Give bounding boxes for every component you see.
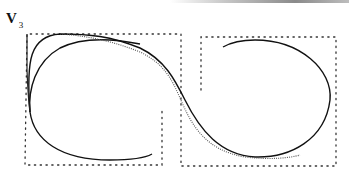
outer-solid-curve xyxy=(29,34,330,157)
dotted-curve xyxy=(60,34,300,158)
inner-solid-curve xyxy=(30,40,152,160)
left-region-boundary xyxy=(25,34,181,165)
diagram-canvas xyxy=(0,0,349,173)
right-region-boundary xyxy=(181,37,336,166)
